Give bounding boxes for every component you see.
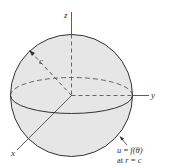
radius-label: c bbox=[39, 56, 43, 66]
boundary-condition-line1: u = f(θ) bbox=[117, 145, 143, 155]
boundary-arrowhead bbox=[120, 136, 125, 141]
x-axis-label: x bbox=[10, 148, 15, 158]
sphere-diagram: z y x c u = f(θ) at r = c bbox=[0, 0, 169, 167]
z-axis-label: z bbox=[63, 10, 68, 20]
y-axis-label: y bbox=[150, 90, 155, 100]
boundary-condition-line2: at r = c bbox=[117, 155, 142, 165]
